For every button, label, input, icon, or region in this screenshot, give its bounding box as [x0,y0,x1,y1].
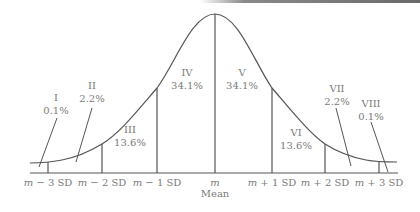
axis-label-mean: m [210,177,219,188]
svg-text:2.2%: 2.2% [79,93,104,104]
svg-text:0.1%: 0.1% [358,111,383,122]
region-label-viii: VIII 0.1% [358,98,383,122]
region-label-vii: VII 2.2% [324,83,349,107]
svg-text:34.1%: 34.1% [226,80,258,91]
leader-line-ii [76,108,92,162]
leader-line-vii [336,108,351,166]
svg-text:III: III [124,124,136,135]
svg-text:VI: VI [289,127,301,138]
svg-text:V: V [237,67,246,78]
axis-label-m-2sd: m − 2 SD [78,177,127,188]
leader-line-i [39,118,57,167]
region-label-vi: VI 13.6% [280,127,312,151]
svg-text:13.6%: 13.6% [280,140,312,151]
region-label-i: I 0.1% [43,92,68,116]
axis-label-m+1sd: m + 1 SD [248,177,297,188]
region-label-iii: III 13.6% [114,124,146,148]
svg-text:I: I [54,92,58,103]
svg-text:2.2%: 2.2% [324,96,349,107]
axis-label-m+3sd: m + 3 SD [355,177,404,188]
axis-label-m-1sd: m − 1 SD [133,177,182,188]
axis-label-m-3sd: m − 3 SD [24,177,73,188]
svg-text:13.6%: 13.6% [114,137,146,148]
mean-label: Mean [201,188,230,199]
region-label-ii: II 2.2% [79,80,104,104]
svg-text:II: II [88,80,96,91]
svg-text:VII: VII [328,83,344,94]
normal-distribution-diagram: I 0.1% II 2.2% III 13.6% IV 34.1% V 34.1… [0,0,420,212]
axis-label-m+2sd: m + 2 SD [301,177,350,188]
region-label-iv: IV 34.1% [171,67,203,91]
svg-text:VIII: VIII [360,98,380,109]
region-label-v: V 34.1% [226,67,258,91]
svg-text:0.1%: 0.1% [43,105,68,116]
svg-text:IV: IV [181,67,193,78]
svg-text:34.1%: 34.1% [171,80,203,91]
